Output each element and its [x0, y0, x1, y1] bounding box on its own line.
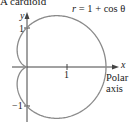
x-axis-arrow-icon — [112, 65, 119, 70]
y-axis-label: y — [20, 11, 24, 21]
figure-title: A cardioid — [0, 0, 46, 7]
y-axis-arrow-icon — [25, 12, 30, 19]
cardioid-figure: A cardioid r = 1 + cos θ y x 1 −1 1 Pola… — [0, 0, 133, 127]
polar-axis-label-line1: Polar — [106, 72, 128, 83]
equation-rhs: = 1 + cos θ — [79, 3, 126, 14]
y-tick-label-1: 1 — [19, 24, 24, 34]
polar-axis-label-line2: axis — [106, 83, 123, 94]
x-tick-label-1: 1 — [64, 70, 69, 80]
y-tick-label-neg1: −1 — [12, 101, 23, 111]
x-axis-label: x — [121, 60, 125, 70]
polar-axis-label: Polaraxis — [106, 72, 128, 94]
equation-label: r = 1 + cos θ — [72, 4, 125, 15]
equation-lhs: r — [72, 3, 76, 14]
